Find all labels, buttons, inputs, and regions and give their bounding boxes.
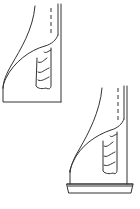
drape-inner-curve bbox=[3, 35, 58, 88]
tieback-rope-twists bbox=[38, 50, 51, 81]
base-tray bbox=[67, 184, 133, 193]
drape-inner-curve bbox=[70, 119, 124, 172]
tieback-rope-outline bbox=[103, 132, 117, 174]
curtain-illustrations bbox=[0, 0, 140, 209]
curtain-drawing-bottom bbox=[67, 86, 133, 193]
frame-bottom-left bbox=[3, 88, 61, 102]
curtain-drawing-top bbox=[3, 4, 61, 102]
tieback-rope-twists bbox=[104, 134, 117, 166]
drape-outer-curve bbox=[3, 6, 35, 88]
drape-outer-curve bbox=[70, 88, 102, 172]
